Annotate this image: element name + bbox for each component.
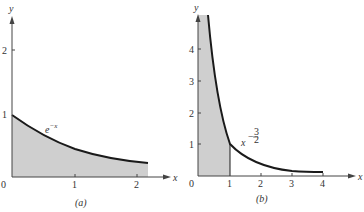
origin-label-b: 0: [189, 178, 194, 189]
x-axis-arrow-b: [348, 174, 356, 179]
curve-label-a: e−x: [45, 122, 58, 135]
y-tick-label-3-b: 3: [189, 76, 194, 87]
svg-text:2: 2: [254, 134, 259, 145]
x-tick-label-2-b: 2: [258, 178, 263, 189]
y-axis-label-a: y: [8, 3, 14, 14]
shaded-area-a: [12, 115, 148, 177]
y-axis-arrow-a: [10, 16, 15, 24]
shaded-area-b: [198, 15, 230, 176]
x-axis-label-a: x: [172, 172, 178, 183]
y-tick-label-1-b: 1: [189, 139, 194, 150]
origin-label-a: 0: [1, 179, 6, 190]
panel-b: y x 0 1 2 3 4 1 2 3 4 x − 3 2 (b): [189, 2, 363, 205]
svg-text:x: x: [240, 137, 246, 148]
figure: y x 0 1 2 1 2 e−x (a) y x 0 1 2 3 4 1 2: [0, 0, 364, 212]
y-tick-label-1-a: 1: [2, 109, 7, 120]
x-tick-label-1-b: 1: [227, 178, 232, 189]
panel-a: y x 0 1 2 1 2 e−x (a): [1, 3, 178, 209]
x-tick-label-1-a: 1: [72, 179, 77, 190]
curve-label-b: x − 3 2: [240, 126, 259, 148]
x-tick-label-3-b: 3: [289, 178, 294, 189]
x-axis-arrow-a: [163, 175, 171, 180]
x-axis-label-b: x: [357, 171, 363, 182]
y-axis-label-b: y: [193, 2, 199, 13]
y-tick-label-4-b: 4: [189, 44, 194, 55]
x-tick-label-4-b: 4: [320, 178, 325, 189]
x-tick-label-2-a: 2: [134, 179, 139, 190]
caption-b: (b): [256, 193, 268, 205]
y-tick-label-2-a: 2: [2, 45, 7, 56]
caption-a: (a): [75, 197, 87, 209]
y-tick-label-2-b: 2: [189, 108, 194, 119]
